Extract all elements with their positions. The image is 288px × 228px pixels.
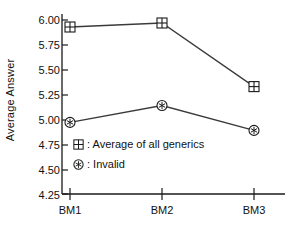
series-average-of-all-generics (65, 18, 259, 92)
chart-container: Average Answer 6.00 5.75 5.50 5.25 5.00 … (0, 0, 288, 228)
square-crossed-marker-icon (72, 138, 85, 151)
circle-asterisk-marker-icon (72, 158, 85, 171)
series-invalid (65, 101, 259, 136)
data-point-marker (249, 125, 259, 135)
plot-area (0, 0, 288, 228)
data-point-marker (65, 22, 75, 32)
legend-item-average-of-all-generics: : Average of all generics (72, 136, 262, 153)
y-axis-ticks (62, 20, 68, 194)
data-point-marker (157, 18, 167, 28)
data-point-marker (65, 117, 75, 127)
legend-label: : Invalid (87, 159, 125, 170)
legend-item-invalid: : Invalid (72, 156, 262, 173)
legend-label: : Average of all generics (87, 139, 204, 150)
data-point-marker (249, 82, 259, 92)
data-point-marker (157, 101, 167, 111)
chart-legend: : Average of all generics : Invalid (72, 136, 262, 176)
